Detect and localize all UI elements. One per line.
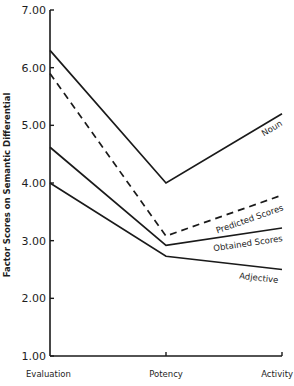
y-tick-label: 3.00	[22, 235, 47, 248]
y-tick-label: 7.00	[22, 4, 47, 17]
x-category-label: Evaluation	[26, 369, 71, 379]
x-category-label: Potency	[149, 369, 183, 379]
series-lines	[50, 50, 282, 269]
chart-canvas: Factor Scores on Semantic Differential 1…	[0, 0, 294, 386]
y-tick-label: 2.00	[22, 292, 47, 305]
y-tick-label: 1.00	[22, 350, 47, 363]
series-label: Adjective	[239, 271, 279, 285]
series-labels: NounPredicted ScoresObtained ScoresAdjec…	[213, 118, 286, 285]
x-category-label: Activity	[261, 369, 293, 379]
y-tick-label: 6.00	[22, 62, 47, 75]
y-ticks: 1.002.003.004.005.006.007.00	[22, 4, 55, 363]
series-line-adjective	[50, 183, 282, 270]
series-line-obtained-scores	[50, 147, 282, 245]
series-line-noun	[50, 50, 282, 183]
y-tick-label: 4.00	[22, 177, 47, 190]
series-line-predicted-scores	[50, 73, 282, 236]
y-axis-label: Factor Scores on Semantic Differential	[2, 93, 12, 278]
line-chart: Factor Scores on Semantic Differential 1…	[0, 0, 294, 386]
y-tick-label: 5.00	[22, 119, 47, 132]
series-label: Noun	[260, 118, 284, 138]
